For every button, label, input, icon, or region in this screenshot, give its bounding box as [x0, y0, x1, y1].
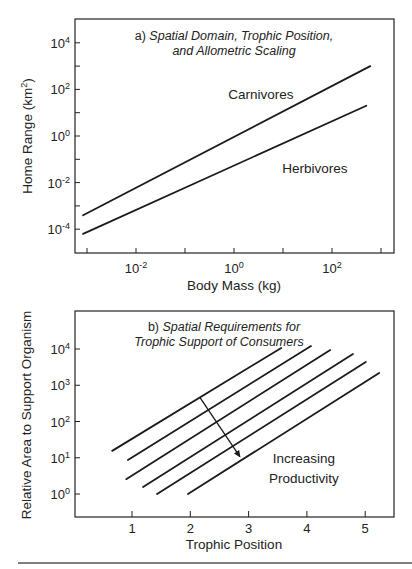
panel-b-tick-labels: 12345104103102101100 [51, 341, 369, 536]
y-tick-label: 102 [51, 81, 70, 97]
x-tick-label: 5 [362, 521, 369, 536]
y-tick-label: 104 [51, 35, 70, 51]
panel-b-y-axis-label: Relative Area to Support Organism [19, 311, 34, 520]
y-tick-label: 103 [51, 377, 70, 393]
panel-b-title-line1: b) Spatial Requirements for [148, 320, 301, 334]
label-herbivores: Herbivores [282, 161, 348, 176]
y-tick-label: 10-2 [48, 175, 70, 191]
y-tick-label: 102 [51, 414, 70, 430]
series-line-productivity-level-4 [143, 354, 353, 487]
series-line-carnivores [83, 66, 370, 215]
panel-a-title-line2: and Allometric Scaling [172, 44, 295, 58]
x-tick-label: 3 [245, 521, 252, 536]
y-tick-label: 100 [51, 486, 70, 502]
label-increasing: Increasing [273, 451, 335, 466]
panel-b: 12345104103102101100 IncreasingProductiv… [19, 311, 394, 552]
panel-a-y-axis-label: Home Range (km2) [19, 78, 35, 193]
label-productivity: Productivity [269, 471, 339, 486]
panel-a-tick-labels: 10-210010210410210010-210-4 [48, 35, 342, 276]
panel-a-title-line1: a) Spatial Domain, Trophic Position, [135, 29, 334, 43]
panel-a-ticks [75, 43, 381, 253]
figure: 10-210010210410210010-210-4 CarnivoresHe… [0, 0, 412, 569]
x-tick-label: 1 [128, 521, 135, 536]
panel-a-x-axis-label: Body Mass (kg) [187, 278, 281, 293]
x-tick-label: 2 [187, 521, 194, 536]
series-line-productivity-level-2 [128, 346, 311, 460]
x-tick-label: 102 [322, 260, 341, 276]
panel-a: 10-210010210410210010-210-4 CarnivoresHe… [19, 19, 394, 293]
y-tick-label: 104 [51, 341, 70, 357]
y-tick-label: 100 [51, 128, 70, 144]
y-tick-label: 10-4 [48, 221, 70, 237]
panel-b-title-line2: Trophic Support of Consumers [134, 335, 303, 349]
panel-a-series [83, 66, 370, 234]
x-tick-label: 4 [303, 521, 310, 536]
x-tick-label: 10-2 [125, 260, 147, 276]
panel-b-series [112, 346, 379, 494]
panel-b-annotations: IncreasingProductivity [269, 451, 339, 486]
x-tick-label: 100 [224, 260, 243, 276]
label-carnivores: Carnivores [228, 87, 294, 102]
y-tick-label: 101 [51, 450, 70, 466]
panel-b-x-axis-label: Trophic Position [186, 537, 282, 552]
